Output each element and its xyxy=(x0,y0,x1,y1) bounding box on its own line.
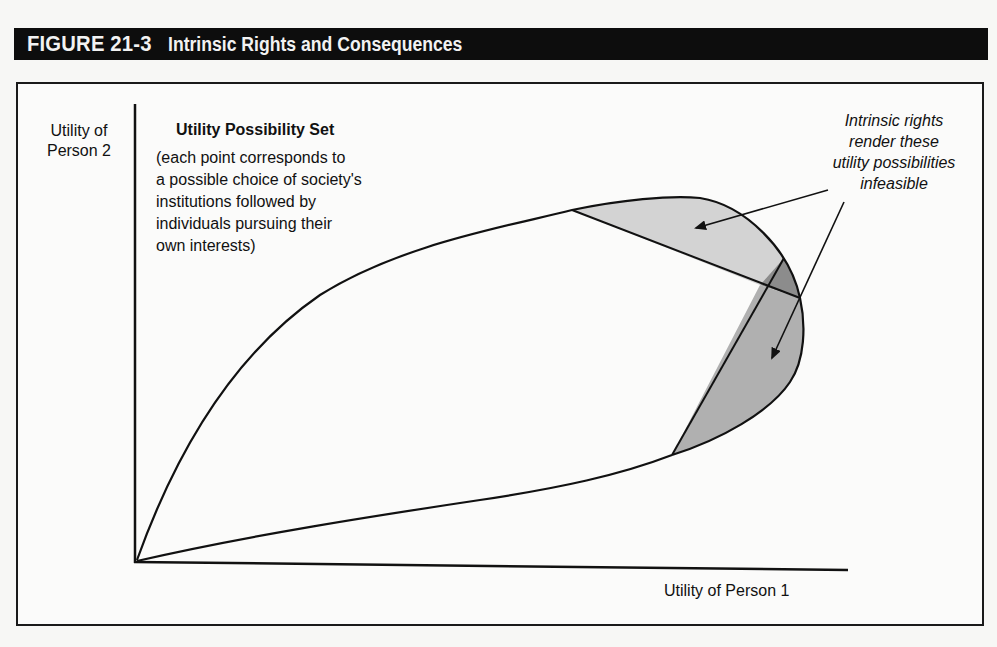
description-line: own interests) xyxy=(156,235,426,257)
utility-set-description: (each point corresponds to a possible ch… xyxy=(156,147,426,257)
x-axis xyxy=(134,562,848,570)
annotation-line: infeasible xyxy=(806,173,982,194)
right-infeasible-region xyxy=(672,285,803,455)
utility-possibility-diagram xyxy=(0,0,997,647)
description-line: individuals pursuing their xyxy=(156,213,426,235)
y-axis-label: Utility of Person 2 xyxy=(30,121,128,161)
lower-frontier-curve xyxy=(137,455,672,561)
description-line: a possible choice of society's xyxy=(156,169,426,191)
annotation-line: Intrinsic rights xyxy=(806,110,982,131)
intrinsic-rights-annotation: Intrinsic rights render these utility po… xyxy=(806,110,982,194)
description-line: (each point corresponds to xyxy=(156,147,426,169)
description-line: institutions followed by xyxy=(156,191,426,213)
upper-infeasible-region xyxy=(572,197,784,285)
y-axis-label-line-1: Utility of xyxy=(30,121,128,141)
x-axis-label: Utility of Person 1 xyxy=(664,582,789,600)
y-axis-label-line-2: Person 2 xyxy=(30,141,128,161)
utility-set-title: Utility Possibility Set xyxy=(176,121,334,139)
annotation-line: utility possibilities xyxy=(806,152,982,173)
annotation-line: render these xyxy=(806,131,982,152)
